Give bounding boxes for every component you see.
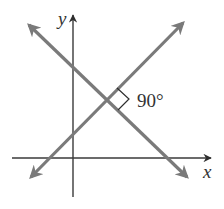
right-angle-marker xyxy=(117,88,129,110)
angle-label: 90° xyxy=(137,90,164,111)
x-axis-label: x xyxy=(202,161,212,182)
y-axis-label: y xyxy=(56,8,67,29)
diagram-canvas: y x 90° xyxy=(0,0,224,209)
